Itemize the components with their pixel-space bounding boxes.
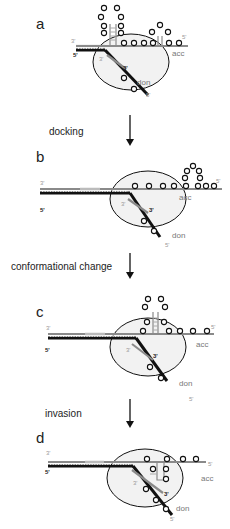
panel-label-d: d: [36, 429, 44, 446]
nucleotide-bead: [146, 183, 151, 188]
step-label-docking: docking: [49, 126, 83, 137]
nucleotide-bead: [132, 183, 137, 188]
nucleotide-bead: [197, 175, 202, 180]
acceptor-label: acc: [172, 49, 184, 58]
step-label-conformational-change: conformational change: [11, 261, 113, 272]
acceptor-label: acc: [179, 193, 191, 202]
end-label-5prime: 5': [40, 207, 45, 213]
nucleotide-bead: [204, 328, 209, 333]
nucleotide-bead: [144, 319, 149, 324]
end-label-5prime: 5': [146, 92, 150, 98]
end-label-5prime: 5': [208, 461, 212, 467]
nucleotide-bead: [101, 30, 106, 35]
end-label-3prime: 3': [40, 180, 44, 186]
nucleotide-bead: [118, 30, 123, 35]
end-label-5prime: 5': [45, 347, 50, 353]
nucleotide-bead: [166, 328, 171, 333]
end-label-3prime: 3': [164, 491, 169, 497]
nucleotide-bead: [101, 23, 106, 28]
nucleotide-bead: [143, 486, 148, 491]
nucleotide-bead: [196, 168, 201, 173]
strand-exchange-diagram: a: [0, 0, 230, 529]
nucleotide-bead: [163, 506, 168, 511]
end-label-3prime: 3': [99, 56, 103, 62]
arrowhead: [126, 421, 134, 428]
end-label-5prime: 5': [189, 396, 193, 402]
panel-label-b: b: [36, 148, 44, 165]
end-label-3prime: 3': [121, 201, 125, 207]
panel-label-c: c: [36, 303, 44, 320]
end-label-3prime: 3': [46, 450, 50, 456]
transition-invasion: invasion: [45, 399, 134, 428]
nucleotide-bead: [98, 14, 103, 19]
nucleotide-bead: [114, 5, 119, 10]
acceptor-label: acc: [201, 474, 213, 483]
end-label-3prime: 3': [133, 480, 137, 486]
nucleotide-bead: [165, 29, 170, 34]
nucleotide-bead: [164, 456, 169, 461]
nucleotide-bead: [166, 40, 171, 45]
nucleotide-bead: [101, 5, 106, 10]
nucleotide-bead: [141, 40, 146, 45]
nucleotide-bead: [161, 319, 166, 324]
panel-a: a: [36, 5, 188, 98]
nucleotide-bead: [177, 328, 182, 333]
nucleotide-bead: [158, 375, 163, 380]
nucleotide-bead: [171, 183, 176, 188]
nucleotide-bead: [121, 40, 126, 45]
donor-label: don: [172, 231, 185, 240]
end-label-3prime: 3': [126, 347, 130, 353]
end-label-5prime: 5': [182, 34, 186, 40]
end-label-3prime: 3': [46, 325, 50, 331]
end-label-5prime: 5': [165, 242, 169, 248]
nucleotide-bead: [162, 304, 167, 309]
donor-label: don: [176, 504, 189, 513]
end-label-3prime: 3': [153, 353, 158, 359]
nucleotide-bead: [211, 183, 216, 188]
panel-label-a: a: [36, 15, 45, 32]
arrowhead: [126, 139, 134, 146]
end-label-3prime: 3': [123, 65, 128, 71]
nucleotide-bead: [151, 228, 156, 233]
nucleotide-bead: [158, 296, 163, 301]
nucleotide-bead: [131, 86, 136, 91]
panel-d: d 3' 5' 5' 3' 3' 5' acc don: [36, 429, 213, 522]
nucleotide-bead: [153, 497, 158, 502]
nucleotide-bead: [190, 163, 195, 168]
end-label-5prime: 5': [216, 178, 220, 184]
end-label-5prime: 5': [211, 324, 215, 330]
nucleotide-bead: [176, 40, 181, 45]
nucleotide-bead: [141, 218, 146, 223]
nucleotide-bead: [150, 466, 155, 471]
nucleotide-bead: [118, 23, 123, 28]
nucleotide-bead: [121, 75, 126, 80]
nucleotide-bead: [150, 40, 155, 45]
nucleotide-bead: [160, 183, 165, 188]
nucleotide-bead: [190, 328, 195, 333]
nucleotide-bead: [193, 456, 198, 461]
transition-docking: docking: [49, 115, 134, 146]
nucleotide-bead: [145, 296, 150, 301]
nucleotide-bead: [182, 175, 187, 180]
nucleotide-bead: [140, 328, 145, 333]
nucleotide-bead: [142, 304, 147, 309]
transition-conformational-change: conformational change: [11, 253, 134, 279]
nucleotide-bead: [131, 40, 136, 45]
nucleotide-bead: [183, 183, 188, 188]
nucleotide-bead: [180, 456, 185, 461]
nucleotide-bead: [203, 183, 208, 188]
nucleotide-bead: [147, 364, 152, 369]
nucleotide-bead: [184, 168, 189, 173]
donor-label: don: [137, 78, 150, 87]
arrowhead: [126, 272, 134, 279]
nucleotide-bead: [163, 466, 168, 471]
panel-b: b 3' 5' 5' 3' 3' 5' acc don: [36, 148, 222, 248]
end-label-3prime: 3': [71, 38, 75, 44]
end-label-3prime: 3': [149, 207, 154, 213]
panel-c: c 3' 5' 5' 3' 3' 5' acc don: [36, 296, 215, 402]
nucleotide-bead: [118, 14, 123, 19]
donor-label: don: [179, 379, 192, 388]
nucleotide-bead: [163, 476, 168, 481]
end-label-5prime: 5': [170, 516, 174, 522]
nucleotide-bead: [149, 29, 154, 34]
